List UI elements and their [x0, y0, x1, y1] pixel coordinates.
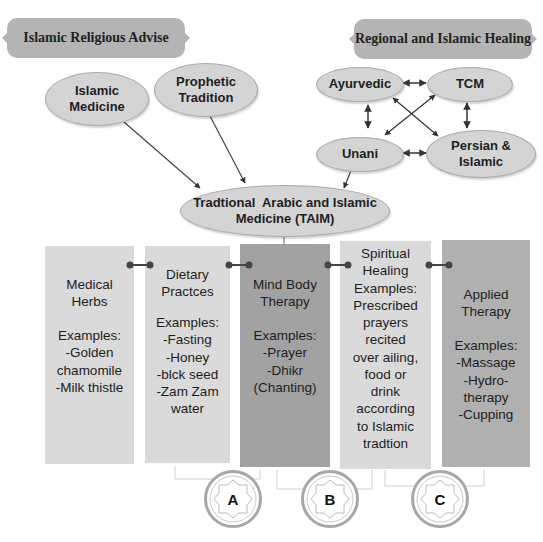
- category-medical-herbs: Medical Herbs Examples: -Golden chamomil…: [45, 246, 134, 464]
- node-islamic-medicine: Islamic Medicine: [45, 72, 149, 126]
- banner-regional-islamic-healing: Regional and Islamic Healing: [354, 19, 532, 59]
- node-prophetic-tradition: Prophetic Tradition: [154, 63, 258, 117]
- banner-islamic-religious-advise: Islamic Religious Advise: [7, 18, 185, 58]
- banner-label: Regional and Islamic Healing: [355, 31, 531, 47]
- badge-a: A: [204, 470, 262, 528]
- banner-label: Islamic Religious Advise: [23, 30, 168, 46]
- category-dietary-practices: Dietary Practces Examples: -Fasting -Hon…: [145, 246, 230, 463]
- node-persian-islamic: Persian & Islamic: [426, 130, 536, 178]
- arrow-tcm-unani: [385, 95, 435, 135]
- category-mind-body-therapy: Mind Body Therapy Examples: -Prayer -Dhi…: [240, 244, 330, 467]
- category-applied-therapy: Applied Therapy Examples: -Massage -Hydr…: [442, 240, 530, 467]
- link-connector-1: [126, 261, 154, 269]
- arrow-ayurvedic-persian: [393, 98, 438, 136]
- arrow-prophetic-to-taim: [210, 116, 245, 183]
- arrow-islamic-medicine-to-taim: [124, 122, 200, 188]
- link-connector-2: [225, 261, 253, 269]
- node-tcm: TCM: [427, 67, 513, 102]
- node-unani: Unani: [316, 137, 404, 172]
- link-connector-4: [425, 261, 453, 269]
- badge-c: C: [411, 470, 469, 528]
- link-connector-3: [324, 261, 352, 269]
- node-taim: Tradtional Arabic and Islamic Medicine (…: [180, 185, 390, 237]
- node-ayurvedic: Ayurvedic: [316, 67, 404, 102]
- category-spiritual-healing: Spiritual Healing Examples: Prescribed p…: [340, 241, 431, 469]
- badge-b: B: [301, 470, 359, 528]
